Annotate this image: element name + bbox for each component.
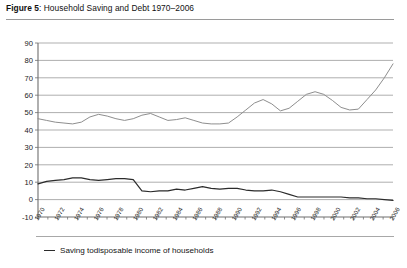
x-tick-label: 1996	[289, 206, 302, 222]
y-tick-label: 10	[25, 178, 33, 187]
x-tick-label: 1974	[72, 206, 85, 222]
y-tick-label: 30	[25, 143, 33, 152]
x-tick-label: 1994	[269, 206, 282, 222]
chart-legend: Saving todisposable income of households	[44, 246, 213, 255]
x-tick-label: 1992	[250, 206, 263, 222]
x-tick-label: 1982	[151, 206, 164, 222]
y-tick-label: 0	[29, 195, 33, 204]
figure-container: Figure 5: Household Saving and Debt 1970…	[0, 0, 407, 268]
chart-bottom-divider	[36, 236, 394, 237]
gridlines	[38, 43, 393, 200]
x-tick-label: 2000	[329, 206, 342, 222]
y-tick-label: 20	[25, 161, 33, 170]
figure-title: Household Saving and Debt 1970–2006	[44, 3, 194, 13]
legend-line-marker-icon	[44, 250, 55, 251]
title-divider	[6, 19, 394, 20]
y-tick-label: 70	[25, 74, 33, 83]
line-chart: 9080706050403020100-10 19701972197419761…	[0, 24, 407, 234]
series-line-saving	[38, 178, 393, 201]
x-tick-label: 1970	[33, 206, 46, 222]
y-tick-label: -10	[22, 213, 33, 222]
series-line-debt	[38, 64, 393, 124]
x-tick-label: 1980	[131, 206, 144, 222]
y-axis-labels: 9080706050403020100-10	[22, 39, 33, 222]
plot-area: 9080706050403020100-10 19701972197419761…	[0, 24, 407, 234]
x-tick-label: 1972	[53, 206, 66, 222]
x-tick-label: 1986	[191, 206, 204, 222]
x-tick-label: 2002	[348, 206, 361, 222]
x-tick-label: 1978	[112, 206, 125, 222]
y-tick-label: 90	[25, 39, 33, 48]
y-tick-label: 40	[25, 126, 33, 135]
y-tick-label: 80	[25, 56, 33, 65]
x-tick-label: 2004	[368, 206, 381, 222]
x-tick-label: 1988	[210, 206, 223, 222]
x-tick-label: 1998	[309, 206, 322, 222]
x-tick-label: 1990	[230, 206, 243, 222]
x-tick-label: 1984	[171, 206, 184, 222]
x-tick-label: 2006	[388, 206, 401, 222]
y-tick-label: 60	[25, 91, 33, 100]
legend-label-saving: Saving todisposable income of households	[60, 246, 213, 255]
figure-label: Figure 5	[6, 3, 39, 13]
x-axis-labels: 1970197219741976197819801982198419861988…	[33, 206, 401, 222]
x-tick-label: 1976	[92, 206, 105, 222]
figure-caption: Figure 5: Household Saving and Debt 1970…	[6, 3, 194, 13]
y-tick-label: 50	[25, 108, 33, 117]
